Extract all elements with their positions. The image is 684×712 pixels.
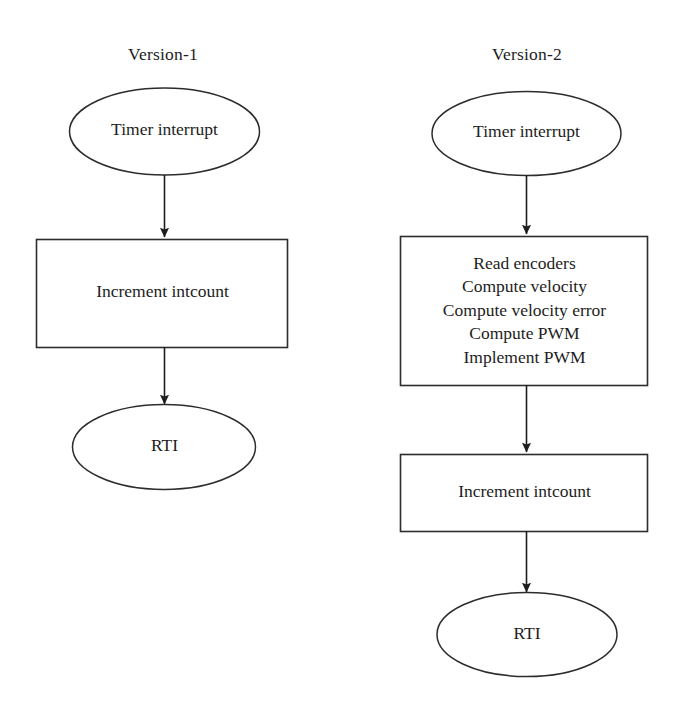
node-v1-end-shape xyxy=(73,405,256,490)
node-v1-start-shape xyxy=(70,88,260,175)
node-v2-process-main-shape xyxy=(401,237,648,386)
node-v1-process-shape xyxy=(37,240,288,348)
node-v2-start-shape xyxy=(432,92,621,176)
column-title-version-2: Version-2 xyxy=(427,44,627,65)
node-v2-end-shape xyxy=(437,593,617,677)
node-v2-process-count-shape xyxy=(401,455,648,532)
flowchart-canvas xyxy=(0,0,684,712)
flowchart-diagram: Version-1 Version-2 Timer interrupt Incr… xyxy=(0,0,684,712)
column-title-version-1: Version-1 xyxy=(63,44,263,65)
